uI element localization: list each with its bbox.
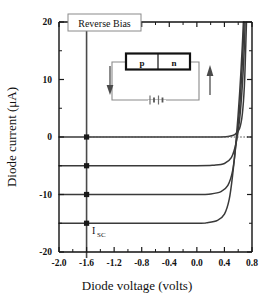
isc-label-main: I [92,225,95,236]
y-tick-label-1: -10 [39,190,52,200]
x-tick-label-5: 0.0 [191,258,203,268]
x-tick-label-3: -0.8 [134,258,149,268]
isc-marker-0 [84,134,89,139]
pn-junction-icon: p n [126,54,190,70]
y-axis-title: Diode current (μA) [4,87,19,187]
x-tick-label-0: -2.0 [51,258,66,268]
reverse-bias-callout: Reverse Bias [68,14,141,31]
isc-marker-3 [84,221,89,226]
x-tick-label-4: -0.4 [162,258,177,268]
isc-marker-2 [84,192,89,197]
isc-marker-1 [84,163,89,168]
isc-label-subscript: SC [97,231,106,239]
y-tick-label-2: 0 [47,132,52,142]
x-tick-label-2: -1.2 [107,258,122,268]
y-tick-label-3: 10 [43,75,53,85]
x-axis-title: Diode voltage (volts) [82,278,192,293]
inset-n-label: n [171,58,176,68]
inset-p-label: p [139,58,144,68]
x-tick-label-6: 0.4 [218,258,230,268]
chart-svg: p n -2.0-1.6-1.2-0.8-0.40.00.40.8-2 [0,0,275,297]
diode-iv-figure: p n -2.0-1.6-1.2-0.8-0.40.00.40.8-2 [0,0,275,297]
reverse-bias-label: Reverse Bias [78,18,131,29]
x-tick-label-7: 0.8 [246,258,258,268]
x-tick-label-1: -1.6 [79,258,94,268]
y-tick-label-4: 20 [43,17,53,27]
y-tick-label-0: -20 [39,247,52,257]
